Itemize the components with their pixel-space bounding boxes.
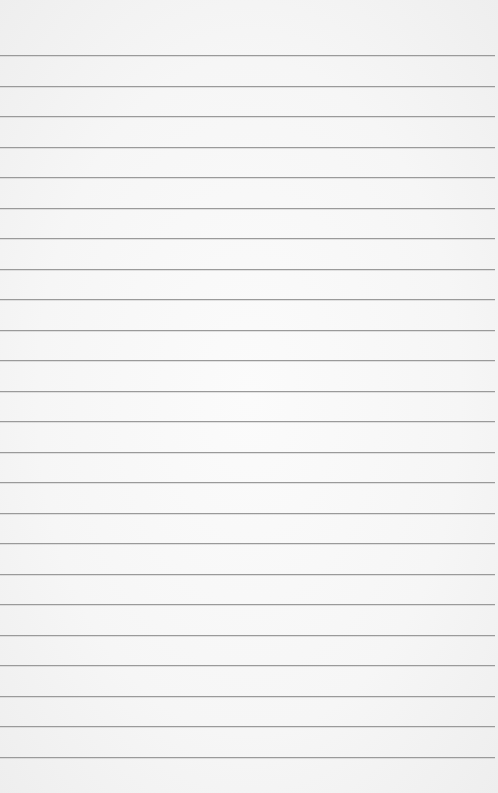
- ruled-line: [0, 86, 495, 87]
- ruled-line: [0, 726, 495, 727]
- ruled-line: [0, 208, 495, 209]
- ruled-line: [0, 543, 495, 544]
- ruled-line: [0, 574, 495, 575]
- ruled-line: [0, 604, 495, 605]
- ruled-line: [0, 55, 495, 56]
- ruled-line: [0, 757, 495, 758]
- ruled-line: [0, 177, 495, 178]
- ruled-line: [0, 269, 495, 270]
- ruled-line: [0, 391, 495, 392]
- ruled-line: [0, 696, 495, 697]
- ruled-line: [0, 421, 495, 422]
- ruled-line: [0, 116, 495, 117]
- ruled-line: [0, 635, 495, 636]
- ruled-line: [0, 513, 495, 514]
- lined-paper: [0, 0, 498, 793]
- ruled-line: [0, 665, 495, 666]
- ruled-line: [0, 360, 495, 361]
- ruled-line: [0, 238, 495, 239]
- ruled-line: [0, 452, 495, 453]
- ruled-line: [0, 330, 495, 331]
- ruled-line: [0, 299, 495, 300]
- ruled-line: [0, 147, 495, 148]
- ruled-line: [0, 482, 495, 483]
